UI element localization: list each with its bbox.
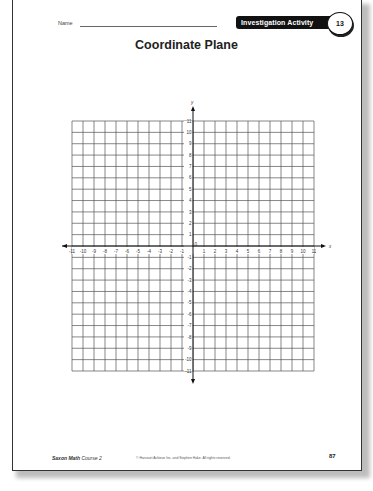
y-tick-label: -10 (185, 357, 192, 362)
x-tick-label: 11 (312, 249, 317, 254)
y-tick-label: -5 (187, 300, 191, 305)
x-tick-label: -10 (80, 249, 87, 254)
x-tick-label: -8 (103, 249, 107, 254)
x-tick-label: -5 (136, 249, 140, 254)
y-tick-label: -6 (187, 312, 191, 317)
x-axis-label: x (328, 244, 332, 249)
x-tick-label: -1 (180, 249, 184, 254)
x-tick-label: 10 (300, 249, 306, 254)
x-tick-label: -2 (169, 249, 173, 254)
y-axis-label: y (190, 100, 194, 105)
y-tick-label: -1 (187, 255, 191, 260)
x-axis-right-arrow-icon (321, 244, 326, 248)
y-tick-label: -3 (187, 278, 191, 283)
book-title-bold: Saxon Math (52, 455, 80, 461)
book-title-course: Course 2 (80, 455, 102, 461)
copyright-notice: © Harcourt Achieve Inc. and Stephen Hake… (136, 456, 230, 460)
y-tick-label: -9 (187, 346, 191, 351)
coordinate-plane[interactable]: xy-11-10-9-8-7-6-5-4-3-2-11234567891011-… (0, 0, 373, 491)
x-tick-label: -11 (69, 249, 76, 254)
x-axis-left-arrow-icon (62, 244, 67, 248)
y-tick-label: 10 (186, 130, 192, 135)
x-tick-label: -3 (158, 249, 162, 254)
y-tick-label: 11 (187, 119, 192, 124)
x-tick-label: -4 (147, 249, 151, 254)
y-tick-label: -11 (185, 369, 192, 374)
book-title: Saxon Math Course 2 (52, 455, 102, 461)
y-axis-up-arrow-icon (191, 106, 195, 111)
y-tick-label: -8 (187, 335, 191, 340)
y-tick-label: -7 (187, 323, 191, 328)
x-tick-label: -9 (92, 249, 96, 254)
page-number: 87 (329, 453, 336, 459)
x-tick-label: -6 (125, 249, 129, 254)
y-tick-label: -2 (187, 266, 191, 271)
x-tick-label: -7 (114, 249, 118, 254)
y-tick-label: -4 (187, 289, 191, 294)
y-axis-down-arrow-icon (191, 379, 195, 384)
